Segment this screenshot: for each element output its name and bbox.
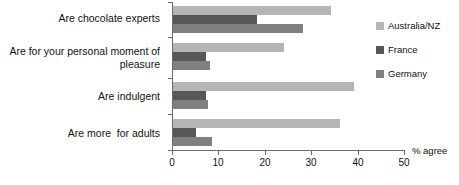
- x-axis-tick: [404, 151, 405, 155]
- legend-label: France: [388, 44, 418, 55]
- legend-swatch-icon: [376, 46, 384, 54]
- bar-australia-nz: [173, 43, 284, 52]
- bar-germany: [173, 24, 303, 33]
- x-tick-label: 10: [212, 157, 223, 168]
- bar-france: [173, 52, 206, 61]
- legend-item-germany: Germany: [376, 68, 440, 79]
- legend-swatch-icon: [376, 70, 384, 78]
- bar-france: [173, 91, 206, 100]
- bar-australia-nz: [173, 119, 340, 128]
- x-axis-tick: [311, 151, 312, 155]
- bar-australia-nz: [173, 82, 354, 91]
- category-label: Are for your personal moment of pleasure: [9, 45, 160, 71]
- legend-label: Australia/NZ: [388, 20, 440, 31]
- x-axis-tick: [265, 151, 266, 155]
- x-tick-label: 0: [169, 157, 175, 168]
- legend-item-australia-nz: Australia/NZ: [376, 20, 440, 31]
- x-axis-line: [172, 150, 405, 151]
- bar-france: [173, 15, 257, 24]
- chart-legend: Australia/NZ France Germany: [376, 20, 440, 92]
- bar-germany: [173, 100, 208, 109]
- bar-germany: [173, 61, 210, 70]
- y-axis-tick: [168, 2, 172, 3]
- category-label: Are indulgent: [98, 90, 160, 103]
- x-axis-tick: [172, 151, 173, 155]
- y-axis-tick: [168, 78, 172, 79]
- category-label: Are chocolate experts: [58, 12, 160, 25]
- x-tick-label: 20: [259, 157, 270, 168]
- x-tick-label: 40: [352, 157, 363, 168]
- y-axis-tick: [168, 37, 172, 38]
- bar-chart: Are chocolate experts Are for your perso…: [0, 0, 459, 185]
- x-axis-tick: [358, 151, 359, 155]
- plot-area: 0 10 20 30 40 50 % agree: [172, 2, 404, 150]
- legend-item-france: France: [376, 44, 440, 55]
- category-axis-labels: Are chocolate experts Are for your perso…: [0, 0, 168, 150]
- x-tick-label: 50: [398, 157, 409, 168]
- x-axis-tick: [218, 151, 219, 155]
- bar-australia-nz: [173, 6, 331, 15]
- bar-france: [173, 128, 196, 137]
- x-axis-title: % agree: [412, 145, 447, 156]
- bar-germany: [173, 137, 212, 146]
- x-tick-label: 30: [305, 157, 316, 168]
- legend-swatch-icon: [376, 22, 384, 30]
- legend-label: Germany: [388, 68, 427, 79]
- category-label: Are more for adults: [68, 127, 160, 140]
- y-axis-tick: [168, 114, 172, 115]
